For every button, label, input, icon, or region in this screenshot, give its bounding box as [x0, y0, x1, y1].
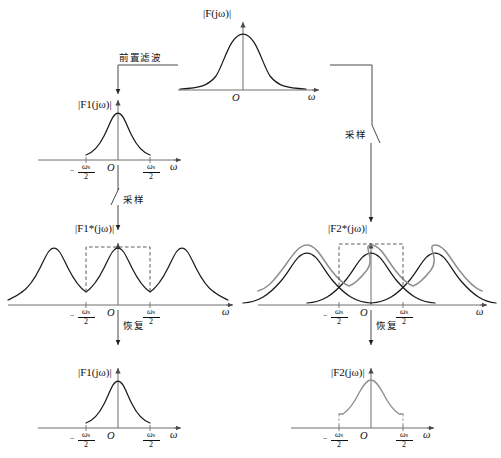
origin-label-chart1: O [232, 92, 240, 103]
tick-omega-s: ωs [76, 163, 96, 171]
tick-negative-chart5: − ωs 2 [76, 431, 96, 449]
chart-original-spectrum [178, 22, 319, 90]
process-label-restore-right: 恢复 [376, 318, 397, 332]
tick-negative-chart2: − ωs 2 [76, 163, 96, 181]
omega-axis-label-chart1: ω [308, 91, 315, 102]
tick-negative-chart3: − ωs 2 [76, 308, 96, 326]
process-label-sampling-left: 采样 [123, 192, 144, 206]
aliased-sum-envelope [258, 245, 482, 291]
tick-positive-chart4: ωs 2 [394, 308, 414, 326]
tick-negative-chart6: − ωs 2 [329, 431, 349, 449]
connector-sampling-right [330, 65, 380, 222]
omega-axis-label-chart2: ω [170, 161, 177, 172]
tick-denominator: 2 [76, 173, 96, 181]
ylabel-sampled-alias: |F2*(jω)| [328, 222, 367, 234]
origin-label-chart5: O [107, 430, 115, 441]
process-label-sampling-right: 采样 [345, 127, 366, 141]
tick-omega-s: ωs [141, 163, 161, 171]
origin-label-chart2: O [107, 162, 115, 173]
omega-axis-label-chart6: ω [423, 429, 430, 440]
tick-positive-chart6: ωs 2 [394, 431, 414, 449]
omega-axis-label-chart3: ω [222, 306, 229, 317]
process-label-restore-left: 恢复 [123, 318, 144, 332]
ylabel-restored-correct: |F1(jω)| [78, 366, 112, 378]
sampling-aliasing-diagram: |F(jω)| O ω 前置滤波 采样 |F1(jω)| O ω − ωs 2 … [0, 0, 501, 458]
tick-negative-chart4: − ωs 2 [329, 308, 349, 326]
ylabel-original-spectrum: |F(jω)| [203, 7, 231, 19]
tick-positive-chart5: ωs 2 [141, 431, 161, 449]
connector-prefilter [118, 65, 178, 94]
tick-positive-chart3: ωs 2 [141, 308, 161, 326]
process-label-prefilter: 前置滤波 [119, 50, 161, 64]
connector-sampling-left [111, 165, 119, 230]
chart-sampled-alias [243, 243, 496, 308]
ylabel-sampled-no-alias: |F1*(jω)| [75, 222, 114, 234]
origin-label-chart6: O [360, 430, 368, 441]
omega-axis-label-chart4: ω [476, 306, 483, 317]
ylabel-restored-distorted: |F2(jω)| [331, 366, 365, 378]
tick-minus-sign: − [70, 167, 75, 175]
origin-label-chart4: O [360, 307, 368, 318]
tick-denominator: 2 [141, 173, 161, 181]
origin-label-chart3: O [107, 307, 115, 318]
chart-sampled-no-alias [8, 243, 233, 308]
tick-positive-chart2: ωs 2 [141, 163, 161, 181]
ylabel-prefiltered-spectrum: |F1(jω)| [78, 98, 112, 110]
omega-axis-label-chart5: ω [170, 429, 177, 440]
